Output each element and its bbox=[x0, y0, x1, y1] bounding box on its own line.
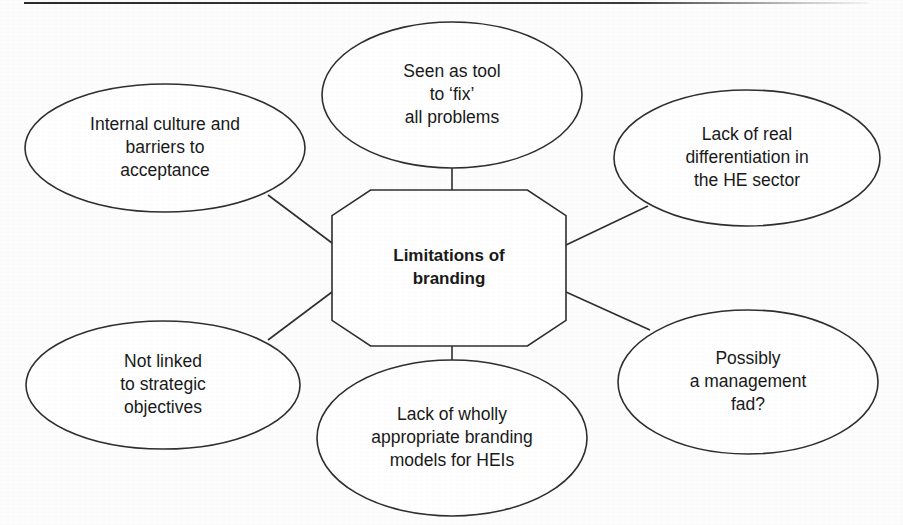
lack-of-wholly-appropriate-branding-models-for-heis[interactable]: Lack of whollyappropriate brandingmodels… bbox=[317, 360, 587, 516]
lack-of-real-differentiation-in-the-he-sector[interactable]: Lack of realdifferentiation inthe HE sec… bbox=[614, 90, 880, 226]
connector-bottom-left bbox=[268, 292, 332, 340]
seen-as-tool-to-fix-all-problems[interactable]: Seen as toolto ‘fix’all problems bbox=[322, 22, 582, 168]
node-label: Not linkedto strategicobjectives bbox=[120, 351, 206, 417]
connector-top-left bbox=[268, 195, 332, 243]
node-label: Lack of realdifferentiation inthe HE sec… bbox=[685, 124, 808, 190]
internal-culture-and-barriers-to-acceptance[interactable]: Internal culture andbarriers toacceptanc… bbox=[25, 84, 305, 212]
diagram-canvas: Internal culture andbarriers toacceptanc… bbox=[0, 0, 903, 525]
node-layer: Internal culture andbarriers toacceptanc… bbox=[25, 22, 880, 516]
not-linked-to-strategic-objectives[interactable]: Not linkedto strategicobjectives bbox=[26, 321, 300, 449]
connector-top-right bbox=[566, 206, 648, 245]
center-node-limitations-of-branding[interactable]: Limitations ofbranding bbox=[332, 190, 566, 346]
connector-bottom-right bbox=[566, 292, 650, 330]
possibly-a-management-fad[interactable]: Possiblya managementfad? bbox=[618, 310, 878, 454]
concept-map-svg: Internal culture andbarriers toacceptanc… bbox=[0, 0, 903, 525]
